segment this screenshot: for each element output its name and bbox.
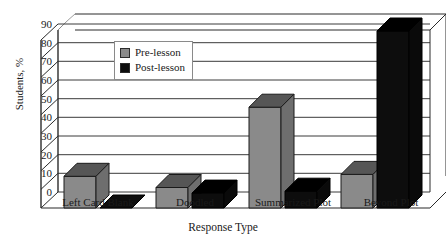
legend-label-post-lesson: Post-lesson (135, 62, 185, 73)
legend-item-pre-lesson: Pre-lesson (120, 45, 185, 60)
legend-swatch-post-lesson (120, 63, 130, 73)
legend-swatch-pre-lesson (120, 48, 130, 58)
x-tick-label-beyond-plot: Beyond Plot (336, 196, 446, 208)
legend: Pre-lesson Post-lesson (114, 41, 193, 80)
legend-label-pre-lesson: Pre-lesson (135, 47, 181, 58)
bar-post-beyond-plot (377, 18, 422, 208)
x-axis-title: Response Type (0, 221, 446, 233)
chart-container: Students, % 90 80 70 60 50 40 30 20 10 0 (0, 0, 446, 242)
legend-item-post-lesson: Post-lesson (120, 60, 185, 75)
